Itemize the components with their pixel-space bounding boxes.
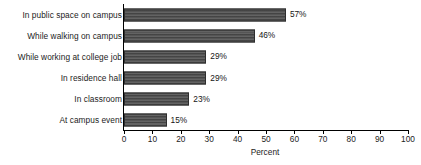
tick-mark — [351, 130, 352, 134]
bar-wrapper: 15% — [124, 114, 167, 127]
tick-label: 70 — [318, 135, 327, 143]
bar-value-label: 29% — [210, 53, 227, 61]
category-label: In classroom — [74, 95, 122, 103]
category-label: At campus event — [59, 116, 122, 124]
tick-label: 50 — [261, 135, 270, 143]
bar-row: While walking on campus46% — [0, 25, 421, 46]
tick-label: 60 — [290, 135, 299, 143]
bar-value-label: 46% — [259, 32, 276, 40]
tick-mark — [124, 130, 125, 134]
tick-mark — [380, 130, 381, 134]
tick-mark — [266, 130, 267, 134]
bar — [124, 29, 255, 42]
bar — [124, 93, 189, 106]
bar — [124, 50, 206, 63]
bar-rows: In public space on campus57%While walkin… — [0, 4, 421, 131]
tick-label: 20 — [176, 135, 185, 143]
bar-wrapper: 29% — [124, 50, 206, 63]
bar — [124, 8, 286, 21]
bar-value-label: 15% — [171, 116, 188, 124]
bar — [124, 72, 206, 85]
x-axis-ticks: Percent 0102030405060708090100 — [0, 130, 421, 165]
tick-label: 10 — [148, 135, 157, 143]
tick-mark — [181, 130, 182, 134]
bar-wrapper: 57% — [124, 8, 286, 21]
bar-wrapper: 23% — [124, 93, 189, 106]
tick-label: 80 — [347, 135, 356, 143]
bar-wrapper: 29% — [124, 72, 206, 85]
tick-mark — [238, 130, 239, 134]
tick-label: 90 — [375, 135, 384, 143]
tick-label: 0 — [122, 135, 127, 143]
bar-row: While working at college job29% — [0, 46, 421, 67]
category-label: While walking on campus — [27, 32, 122, 40]
bar-row: In classroom23% — [0, 89, 421, 110]
bar — [124, 114, 167, 127]
category-label: In residence hall — [61, 74, 122, 82]
bar-chart: In public space on campus57%While walkin… — [0, 0, 421, 165]
bar-row: In public space on campus57% — [0, 4, 421, 25]
tick-mark — [294, 130, 295, 134]
bar-value-label: 23% — [193, 95, 210, 103]
bar-row: In residence hall29% — [0, 68, 421, 89]
x-axis-title: Percent — [251, 148, 280, 156]
tick-label: 30 — [205, 135, 214, 143]
bar-row: At campus event15% — [0, 110, 421, 131]
category-label: In public space on campus — [23, 10, 123, 18]
bar-value-label: 57% — [290, 10, 307, 18]
tick-mark — [209, 130, 210, 134]
bar-value-label: 29% — [210, 74, 227, 82]
bar-wrapper: 46% — [124, 29, 255, 42]
category-label: While working at college job — [18, 53, 122, 61]
tick-label: 40 — [233, 135, 242, 143]
tick-label: 100 — [401, 135, 415, 143]
tick-mark — [323, 130, 324, 134]
tick-mark — [408, 130, 409, 134]
tick-mark — [152, 130, 153, 134]
